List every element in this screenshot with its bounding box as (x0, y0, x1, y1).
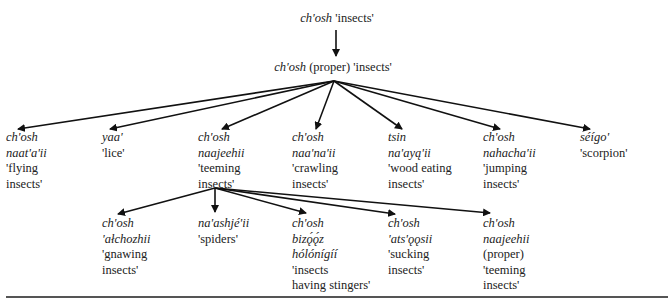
gloss-line: 'gnawing (102, 247, 151, 263)
node-insects-having-stingers: ch'osh bizǫ́ǫ́z hólónígíí 'insects havin… (292, 216, 370, 294)
term-line: na'ashjé'ii (198, 216, 249, 232)
term-line: ch'osh (102, 216, 151, 232)
gloss-line: 'teeming (483, 263, 530, 279)
term-line: nahacha'ii (483, 146, 536, 162)
gloss-line: insects' (198, 177, 245, 193)
node-teeming-insects-proper: ch'osh naajeehii (proper) 'teeming insec… (483, 216, 530, 294)
term-line: ch'osh (6, 130, 47, 146)
term-line: 'ats'ǫǫsii (388, 232, 432, 248)
term-line: hólónígíí (292, 247, 370, 263)
node-teeming-insects: ch'osh naajeehii 'teeming insects' (198, 130, 245, 192)
node-wood-eating-insects: tsin na'ayą'ii 'wood eating insects' (388, 130, 452, 192)
term-line: bizǫ́ǫ́z (292, 232, 370, 248)
term-line: na'ayą'ii (388, 146, 452, 162)
term-line: naajeehii (198, 146, 245, 162)
gloss-line: insects' (102, 263, 151, 279)
proper-term: ch'osh (274, 60, 306, 74)
node-lice: yaa' 'lice' (102, 130, 125, 161)
term-line: ch'osh (292, 130, 338, 146)
proper-qualifier: (proper) (309, 60, 350, 74)
gloss-line: 'jumping (483, 161, 536, 177)
term-line: naat'a'ii (6, 146, 47, 162)
term-line: ch'osh (292, 216, 370, 232)
gloss-line: 'lice' (102, 146, 125, 162)
node-scorpion: séígo' 'scorpion' (580, 130, 628, 161)
term-line: 'ałchozhii (102, 232, 151, 248)
bottom-rule (6, 296, 668, 298)
proper-insects-node: ch'osh (proper) 'insects' (274, 60, 392, 76)
gloss-line: 'insects (292, 263, 370, 279)
term-line: ch'osh (198, 130, 245, 146)
qualifier-line: (proper) (483, 247, 530, 263)
node-jumping-insects: ch'osh nahacha'ii 'jumping insects' (483, 130, 536, 192)
gloss-line: insects' (388, 177, 452, 193)
gloss-line: 'flying (6, 161, 47, 177)
node-sucking-insects: ch'osh 'ats'ǫǫsii 'sucking insects' (388, 216, 432, 278)
gloss-line: insects' (483, 278, 530, 294)
gloss-line: insects' (483, 177, 536, 193)
gloss-line: 'spiders' (198, 232, 249, 248)
gloss-line: 'scorpion' (580, 146, 628, 162)
term-line: naa'na'ii (292, 146, 338, 162)
node-gnawing-insects: ch'osh 'ałchozhii 'gnawing insects' (102, 216, 151, 278)
term-line: yaa' (102, 130, 125, 146)
gloss-line: insects' (388, 263, 432, 279)
gloss-line: 'wood eating (388, 161, 452, 177)
gloss-line: having stingers' (292, 278, 370, 294)
term-line: ch'osh (483, 216, 530, 232)
root-node: ch'osh 'insects' (300, 11, 374, 27)
gloss-line: insects' (6, 177, 47, 193)
node-spiders: na'ashjé'ii 'spiders' (198, 216, 249, 247)
root-term: ch'osh (300, 11, 332, 25)
term-line: naajeehii (483, 232, 530, 248)
root-gloss: 'insects' (335, 11, 374, 25)
term-line: séígo' (580, 130, 628, 146)
term-line: ch'osh (483, 130, 536, 146)
proper-gloss: 'insects' (353, 60, 392, 74)
gloss-line: insects' (292, 177, 338, 193)
term-line: ch'osh (388, 216, 432, 232)
node-flying-insects: ch'osh naat'a'ii 'flying insects' (6, 130, 47, 192)
gloss-line: 'sucking (388, 247, 432, 263)
node-crawling-insects: ch'osh naa'na'ii 'crawling insects' (292, 130, 338, 192)
term-line: tsin (388, 130, 452, 146)
gloss-line: 'teeming (198, 161, 245, 177)
gloss-line: 'crawling (292, 161, 338, 177)
